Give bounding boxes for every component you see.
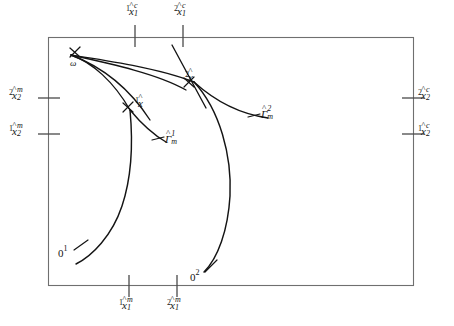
ray-omega-middle-b bbox=[71, 55, 186, 90]
manifold-label-gamma-2-m: ^Γ2m bbox=[261, 107, 273, 120]
axis-label-bottom-1: 1^xm1 bbox=[118, 298, 133, 311]
axis-label-left-1: 2^xm2 bbox=[8, 88, 23, 101]
point-label-origin-1: 01 bbox=[58, 246, 68, 259]
axis-label-left-2-subscript: 2 bbox=[17, 130, 21, 138]
axis-label-right-2-subscript: 2 bbox=[426, 130, 430, 138]
axis-label-bottom-2: 2^xm1 bbox=[166, 298, 181, 311]
origin-1-superscript: 1 bbox=[64, 244, 68, 253]
axis-label-left-2: 1^xm2 bbox=[8, 124, 23, 137]
axis-label-top-1: 1^xc1 bbox=[125, 4, 140, 17]
cross-mark-x-hat-1 bbox=[123, 102, 133, 112]
manifold-curve-1 bbox=[130, 110, 166, 142]
origin-2-superscript: 2 bbox=[196, 268, 200, 277]
axis-label-right-1: 2^xc2 bbox=[417, 88, 432, 101]
manifold-curve-2 bbox=[194, 82, 268, 118]
axis-label-bottom-2-subscript: 1 bbox=[175, 304, 179, 312]
axis-label-bottom-1-subscript: 1 bbox=[127, 304, 131, 312]
leader-line-origin-2 bbox=[205, 260, 217, 272]
point-label-origin-2: 02 bbox=[190, 270, 200, 283]
leader-line-origin-1 bbox=[74, 240, 88, 250]
axis-label-right-1-subscript: 2 bbox=[426, 94, 430, 102]
axis-label-left-1-subscript: 2 bbox=[17, 94, 21, 102]
point-label-x-hat-1: 1^x bbox=[134, 96, 143, 109]
axis-label-right-2: 1^xc2 bbox=[417, 124, 432, 137]
point-label-x-hat-2-variable: x bbox=[188, 71, 193, 83]
origin-1-zero: 0 bbox=[58, 247, 64, 259]
figure-root: 1^xc1 2^xc1 2^xm2 1^xm2 2^xc2 1^xc2 1^xm… bbox=[0, 0, 454, 326]
manifold-label-gamma-2-subscript: m bbox=[267, 113, 273, 121]
point-label-x-hat-2: 2^x bbox=[184, 70, 193, 83]
axis-label-top-1-subscript: 1 bbox=[134, 10, 138, 18]
manifold-label-gamma-1-subscript: m bbox=[171, 138, 177, 146]
point-label-x-hat-1-variable: x bbox=[138, 97, 143, 109]
axis-label-top-2: 2^xc1 bbox=[173, 4, 188, 17]
origin-2-zero: 0 bbox=[190, 271, 196, 283]
figure-canvas bbox=[0, 0, 454, 326]
axis-label-top-2-subscript: 1 bbox=[182, 10, 186, 18]
ray-omega-middle-a bbox=[71, 55, 150, 120]
trajectory-curve-1 bbox=[76, 110, 131, 264]
omega-symbol: ω bbox=[70, 58, 76, 68]
point-label-omega: ω bbox=[70, 59, 76, 68]
trajectory-curve-2 bbox=[194, 82, 230, 272]
manifold-label-gamma-1-m: ^Γ1m bbox=[165, 132, 177, 145]
